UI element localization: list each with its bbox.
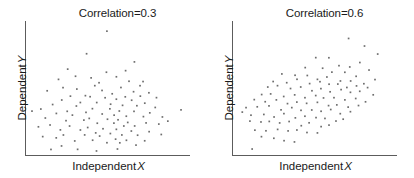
y-axis-label-right-text: Dependent [223, 64, 235, 120]
scatter-points-left [26, 22, 191, 155]
panel-title-right: Correlation=0.6 [207, 7, 414, 19]
x-axis-line-left [25, 155, 190, 156]
scatter-points-right [233, 22, 398, 155]
y-axis-label-left: DependentY [16, 28, 28, 148]
x-axis-label-left-text: Independent [72, 160, 136, 172]
panel-title-left: Correlation=0.3 [0, 7, 207, 19]
scatter-panel-right: Correlation=0.6 IndependentX DependentY [207, 0, 414, 178]
plot-area-right [233, 22, 398, 155]
scatter-panel-left: Correlation=0.3 IndependentX DependentY [0, 0, 207, 178]
x-axis-label-right-var: X [343, 160, 352, 172]
x-axis-line-right [232, 155, 397, 156]
x-axis-label-right-text: Independent [279, 160, 343, 172]
y-axis-label-right: DependentY [223, 28, 235, 148]
x-axis-label-left: IndependentX [26, 160, 191, 172]
y-axis-label-left-text: Dependent [16, 64, 28, 120]
panel-title-right-text: Correlation=0.6 [258, 7, 363, 19]
correlation-figure: Correlation=0.3 IndependentX DependentY … [0, 0, 414, 178]
plot-area-left [26, 22, 191, 155]
y-axis-label-left-var: Y [16, 56, 28, 65]
panel-title-left-text: Correlation=0.3 [51, 7, 156, 19]
x-axis-label-left-var: X [136, 160, 145, 172]
y-axis-label-right-var: Y [223, 56, 235, 65]
x-axis-label-right: IndependentX [233, 160, 398, 172]
